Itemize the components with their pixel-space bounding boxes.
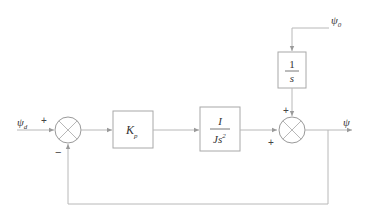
- summing-junction-2: [279, 117, 305, 143]
- block-diagram: ψd + − Kp I Js2 1 s ψ0 + + ψ: [0, 0, 366, 218]
- input-label: ψd: [17, 116, 28, 131]
- sj1-plus-sign: +: [41, 115, 47, 126]
- sj2-left-plus-sign: +: [268, 137, 274, 148]
- sj1-minus-sign: −: [55, 146, 61, 158]
- disturbance-path: [292, 28, 329, 51]
- integrator-numerator: 1: [289, 58, 295, 70]
- summing-junction-1: [55, 117, 81, 143]
- output-label: ψ: [343, 116, 350, 128]
- integrator-denominator: s: [290, 72, 294, 84]
- disturbance-label: ψ0: [331, 14, 342, 29]
- sj2-top-plus-sign: +: [283, 105, 289, 116]
